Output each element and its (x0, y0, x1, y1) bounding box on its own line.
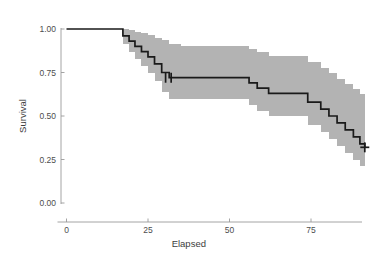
x-tick-label: 0 (64, 225, 69, 235)
x-tick-label: 50 (225, 225, 235, 235)
survival-chart: 0.000.250.500.751.000255075ElapsedSurviv… (0, 0, 379, 274)
x-axis-title: Elapsed (172, 238, 206, 249)
y-tick-label: 0.25 (39, 155, 56, 165)
confidence-band (117, 29, 365, 173)
y-tick-label: 0.00 (39, 198, 56, 208)
survival-plot-svg: 0.000.250.500.751.000255075ElapsedSurviv… (0, 0, 379, 274)
x-tick-label: 25 (143, 225, 153, 235)
y-tick-label: 1.00 (39, 24, 56, 34)
y-axis-title: Survival (17, 99, 28, 133)
y-tick-label: 0.50 (39, 111, 56, 121)
y-tick-label: 0.75 (39, 68, 56, 78)
x-tick-label: 75 (306, 225, 316, 235)
